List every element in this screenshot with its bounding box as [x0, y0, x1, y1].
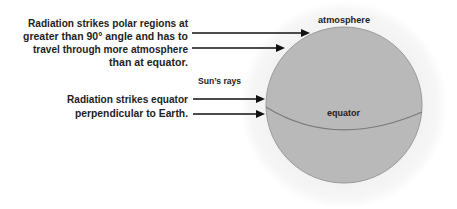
polar-caption-line-1: Radiation strikes polar regions at: [28, 17, 188, 29]
earth-radiation-diagram: atmosphere equator Sun’s rays Radiation …: [0, 0, 457, 209]
polar-caption-line-3: travel through more atmosphere: [33, 43, 188, 55]
earth-globe: [266, 27, 422, 183]
equator-label: equator: [327, 107, 360, 118]
equator-caption-line-1: Radiation strikes equator: [67, 93, 188, 105]
atmosphere-label: atmosphere: [318, 14, 370, 25]
sun-rays-label: Sun’s rays: [198, 75, 241, 86]
equator-caption-line-2: perpendicular to Earth.: [75, 107, 188, 119]
equator-caption: Radiation strikes equator perpendicular …: [67, 93, 188, 119]
polar-caption-line-4: than at equator.: [109, 56, 188, 68]
polar-caption: Radiation strikes polar regions at great…: [23, 17, 188, 68]
polar-caption-line-2: greater than 90° angle and has to: [23, 30, 188, 42]
